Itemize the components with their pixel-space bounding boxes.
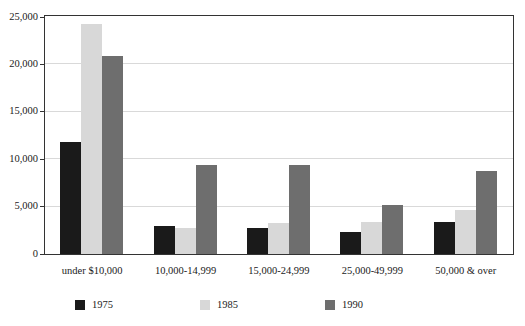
y-axis-tick-mark — [40, 254, 44, 255]
chart-title-remnant — [0, 0, 525, 2]
bar-1990-4 — [382, 205, 403, 254]
x-axis-tick-label: 50,000 & over — [419, 265, 512, 276]
x-axis-tick-label: under $10,000 — [46, 265, 139, 276]
bar-1975-4 — [340, 232, 361, 254]
x-axis-tick-label: 15,000-24,999 — [232, 265, 325, 276]
y-axis-tick-label: 25,000 — [9, 12, 38, 23]
legend-label: 1985 — [217, 300, 238, 311]
y-axis-tick-mark — [40, 64, 44, 65]
bar-1990-3 — [289, 165, 310, 254]
x-axis-tick-label: 25,000-49,999 — [326, 265, 419, 276]
y-axis-tick-label: 0 — [33, 249, 38, 260]
bar-1985-1 — [81, 24, 102, 254]
chart-legend: 197519851990 — [0, 300, 525, 311]
bar-chart: 05,00010,00015,00020,00025,000 under $10… — [0, 0, 525, 326]
legend-label: 1990 — [342, 300, 363, 311]
legend-label: 1975 — [92, 300, 113, 311]
bar-1990-1 — [102, 56, 123, 254]
bar-1975-2 — [154, 226, 175, 254]
y-axis-tick-label: 10,000 — [9, 154, 38, 165]
plot-inner — [45, 16, 513, 254]
bar-1975-3 — [247, 228, 268, 254]
y-axis-tick-label: 15,000 — [9, 106, 38, 117]
y-axis-tick-mark — [40, 17, 44, 18]
y-axis-tick-mark — [40, 206, 44, 207]
y-axis-tick-mark — [40, 111, 44, 112]
bar-1975-5 — [434, 222, 455, 254]
legend-swatch-icon — [200, 300, 210, 310]
bar-1990-2 — [196, 165, 217, 254]
x-axis-tick-label: 10,000-14,999 — [139, 265, 232, 276]
y-axis-tick-label: 5,000 — [14, 201, 38, 212]
bar-group — [138, 16, 231, 254]
bar-1985-2 — [175, 228, 196, 254]
legend-swatch-icon — [325, 300, 335, 310]
bar-1985-5 — [455, 210, 476, 254]
legend-item-1975[interactable]: 1975 — [75, 300, 200, 311]
plot-area — [44, 15, 514, 255]
bar-1985-4 — [361, 222, 382, 254]
bar-group — [419, 16, 512, 254]
bar-1975-1 — [60, 142, 81, 254]
bar-1985-3 — [268, 223, 289, 254]
legend-item-1990[interactable]: 1990 — [325, 300, 450, 311]
legend-item-1985[interactable]: 1985 — [200, 300, 325, 311]
legend-swatch-icon — [75, 300, 85, 310]
bar-1990-5 — [476, 171, 497, 254]
bar-group — [232, 16, 325, 254]
y-axis-tick-mark — [40, 159, 44, 160]
y-axis-tick-label: 20,000 — [9, 59, 38, 70]
bar-group — [325, 16, 418, 254]
bar-group — [45, 16, 138, 254]
